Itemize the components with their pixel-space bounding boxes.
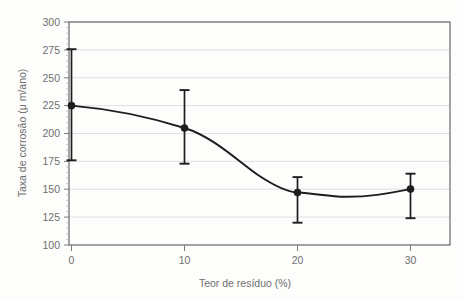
data-point-3: [407, 185, 414, 192]
data-series-line: [72, 106, 411, 197]
y-tick-label: 250: [42, 72, 60, 84]
x-tick-label: 20: [292, 254, 304, 266]
x-tick-label: 0: [69, 254, 75, 266]
y-tick-labels: 300 275 250 225 200 175 150 125 100: [42, 16, 60, 251]
chart-canvas: 300 275 250 225 200 175 150 125 100 0 10…: [0, 0, 463, 300]
y-tick-label: 175: [42, 155, 60, 167]
y-tick-label: 275: [42, 44, 60, 56]
y-tick-label: 225: [42, 99, 60, 111]
data-point-2: [294, 189, 301, 196]
y-axis-title: Taxa de corrosão (μ m/ano): [16, 69, 28, 198]
x-tick-label: 10: [179, 254, 191, 266]
data-point-0: [68, 102, 75, 109]
y-tick-label: 150: [42, 183, 60, 195]
data-point-1: [181, 124, 188, 131]
y-tick-label: 300: [42, 16, 60, 28]
chart-figure: 300 275 250 225 200 175 150 125 100 0 10…: [0, 0, 463, 300]
x-tick-label: 30: [405, 254, 417, 266]
y-tick-label: 125: [42, 211, 60, 223]
y-tick-label: 200: [42, 127, 60, 139]
x-tick-labels: 0 10 20 30: [69, 254, 417, 266]
data-point-markers: [68, 102, 414, 196]
gridlines: [69, 22, 450, 217]
y-tick-label: 100: [42, 239, 60, 251]
x-axis-title: Teor de resíduo (%): [199, 277, 291, 289]
x-axis-major-ticks: [72, 245, 411, 251]
